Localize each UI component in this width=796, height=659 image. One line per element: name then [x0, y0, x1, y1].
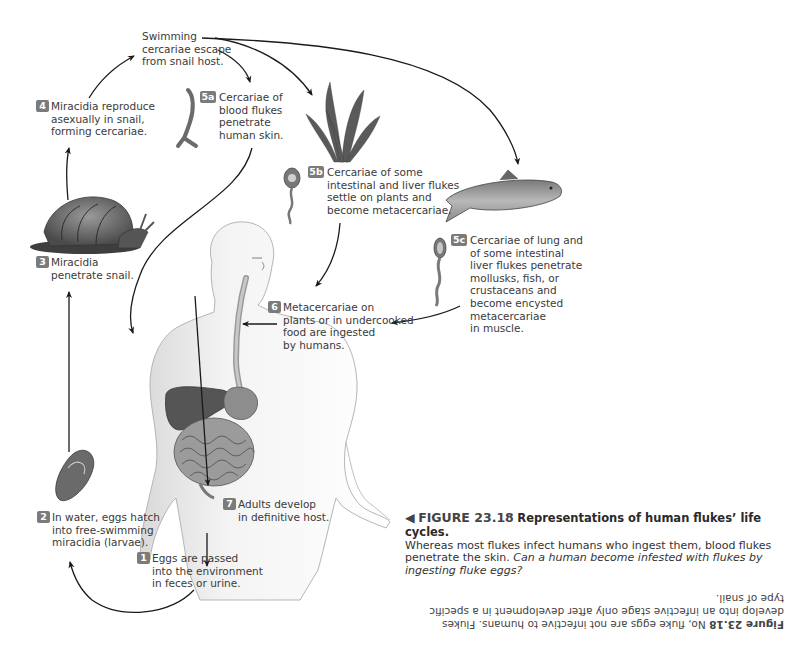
fluke-egg-illustration: [56, 450, 94, 500]
label-line: penetrate: [219, 116, 283, 129]
label-line: Cercariae of lung and: [470, 234, 583, 247]
label-step-6: 6 Metacercariae on plants or in undercoo…: [283, 301, 414, 351]
label-line: metacercariae: [470, 310, 583, 323]
cercaria-on-plant: [284, 168, 300, 224]
label-line: in feces or urine.: [152, 577, 263, 590]
label-line: become metacercariae.: [327, 204, 459, 217]
arrow-5b-to-6: [316, 223, 340, 286]
label-line: intestinal and liver flukes: [327, 179, 459, 192]
label-line: crustaceans and: [470, 284, 583, 297]
step-badge-5c: 5c: [451, 234, 467, 246]
arrow-3-to-4: [67, 148, 69, 200]
label-line: Cercariae of some: [327, 166, 459, 179]
label-line: asexually in snail,: [51, 113, 155, 126]
label-line: become encysted: [470, 297, 583, 310]
label-step-4: 4 Miracidia reproduce asexually in snail…: [51, 100, 155, 138]
label-line: blood flukes: [219, 104, 283, 117]
label-step-1: 1 Eggs are passed into the environment i…: [152, 552, 263, 590]
label-step-3: 3 Miracidia penetrate snail.: [51, 256, 134, 281]
forked-tail-cercaria: [178, 90, 196, 146]
step-badge-4: 4: [36, 100, 49, 112]
label-line: Adults develop: [238, 498, 329, 511]
human-figure: [140, 222, 390, 600]
label-line: miracidia (larvae).: [52, 536, 160, 549]
label-swimming-cercariae: Swimming cercariae escape from snail hos…: [142, 30, 231, 68]
label-line: into free-swimming: [52, 524, 160, 537]
figure-page: Swimming cercariae escape from snail hos…: [0, 0, 796, 659]
label-line: food are ingested: [283, 326, 414, 339]
aquatic-plant: [306, 82, 380, 162]
label-line: Eggs are passed: [152, 552, 263, 565]
step-badge-5b: 5b: [308, 166, 324, 178]
caption-heading: ◀ FIGURE 23.18 Representations of human …: [405, 512, 785, 540]
label-step-7: 7 Adults develop in definitive host.: [238, 498, 329, 523]
label-line: liver flukes penetrate: [470, 259, 583, 272]
label-step-5b: 5b Cercariae of some intestinal and live…: [327, 166, 459, 216]
label-line: plants or in undercooked: [283, 314, 414, 327]
label-line: from snail host.: [142, 55, 231, 68]
label-step-5a: 5a Cercariae of blood flukes penetrate h…: [219, 91, 283, 141]
step-badge-1: 1: [137, 552, 150, 564]
label-line: mollusks, fish, or: [470, 272, 583, 285]
label-line: Swimming: [142, 30, 231, 43]
label-line: Miracidia: [51, 256, 134, 269]
snail-illustration: [30, 197, 154, 254]
label-line: Miracidia reproduce: [51, 100, 155, 113]
label-step-5c: 5c Cercariae of lung and of some intesti…: [470, 234, 583, 335]
pointer-left-icon: ◀: [405, 510, 415, 525]
step-badge-3: 3: [36, 256, 49, 268]
label-line: settle on plants and: [327, 191, 459, 204]
label-line: in definitive host.: [238, 511, 329, 524]
cercaria-lung-fluke: [434, 238, 446, 306]
label-line: Metacercariae on: [283, 301, 414, 314]
label-line: cercariae escape: [142, 43, 231, 56]
label-line: Cercariae of: [219, 91, 283, 104]
label-line: In water, eggs hatch: [52, 511, 160, 524]
step-badge-5a: 5a: [200, 91, 216, 103]
label-line: in muscle.: [470, 322, 583, 335]
upside-down-answer: Figure 23.18 No, fluke eggs are not infe…: [412, 592, 784, 631]
step-badge-6: 6: [268, 301, 281, 313]
caption-body: Whereas most flukes infect humans who in…: [405, 540, 785, 578]
trout-fish: [446, 170, 562, 222]
label-line: of some intestinal: [470, 247, 583, 260]
figure-number: FIGURE 23.18: [418, 510, 514, 525]
step-badge-7: 7: [223, 498, 236, 510]
label-line: into the environment: [152, 565, 263, 578]
label-line: by humans.: [283, 339, 414, 352]
label-line: forming cercariae.: [51, 125, 155, 138]
label-step-2: 2 In water, eggs hatch into free-swimmin…: [52, 511, 160, 549]
figure-caption: ◀ FIGURE 23.18 Representations of human …: [405, 512, 785, 578]
answer-label: Figure 23.18: [709, 619, 784, 631]
step-badge-2: 2: [37, 511, 50, 523]
label-line: human skin.: [219, 129, 283, 142]
label-line: penetrate snail.: [51, 269, 134, 282]
arrow-4-to-swimming: [89, 56, 134, 98]
